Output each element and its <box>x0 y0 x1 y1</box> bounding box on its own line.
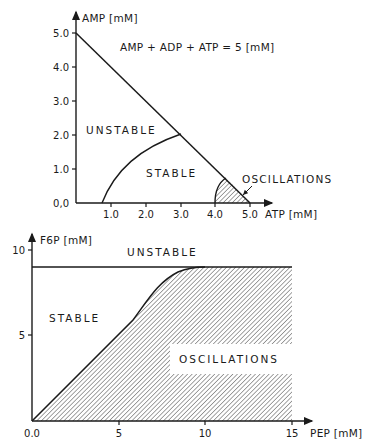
x-tick-1: 1.0 <box>103 209 119 220</box>
y-axis-label-top: AMP [mM] <box>82 12 138 24</box>
diagram-canvas: 5.0 4.0 3.0 2.0 1.0 0,0 1.0 2.0 3.0 4.0 … <box>0 0 378 448</box>
y-axis-label-bottom: F6P [mM] <box>40 234 92 246</box>
region-oscillations-top: OSCILLATIONS <box>242 173 332 185</box>
x-tick-2: 2.0 <box>138 209 154 220</box>
y-tick-0: 0,0 <box>53 198 69 209</box>
region-stable-bottom: STABLE <box>49 312 100 324</box>
x-tick-0-bottom: 0.0 <box>24 428 40 439</box>
x-tick-10-bottom: 10 <box>199 428 212 439</box>
y-tick-2: 2.0 <box>53 130 69 141</box>
constraint-equation: AMP + ADP + ATP = 5 [mM] <box>120 41 274 53</box>
x-tick-15-bottom: 15 <box>286 428 299 439</box>
x-tick-5: 5.0 <box>242 209 258 220</box>
x-axis-label-top: ATP [mM] <box>265 208 317 220</box>
y-tick-10: 10 <box>12 245 25 256</box>
region-unstable-bottom: UNSTABLE <box>127 246 198 258</box>
x-axis-label-bottom: PEP [mM] <box>310 427 363 439</box>
top-diagram: 5.0 4.0 3.0 2.0 1.0 0,0 1.0 2.0 3.0 4.0 … <box>53 12 332 220</box>
y-tick-3: 3.0 <box>53 96 69 107</box>
region-stable-top: STABLE <box>146 167 197 179</box>
y-tick-5: 5.0 <box>53 28 69 39</box>
y-tick-4: 4.0 <box>53 62 69 73</box>
y-tick-1: 1.0 <box>53 164 69 175</box>
x-tick-3: 3.0 <box>173 209 189 220</box>
x-tick-4: 4.0 <box>207 209 223 220</box>
bottom-diagram: 10 5 0.0 5 10 15 F6P [mM] PEP [mM] UNSTA… <box>12 234 362 439</box>
oscillations-pointer-arrow <box>243 186 252 195</box>
region-oscillations-bottom: OSCILLATIONS <box>179 353 279 365</box>
y-tick-5-bottom: 5 <box>19 330 25 341</box>
x-tick-5-bottom: 5 <box>116 428 122 439</box>
region-unstable-top: UNSTABLE <box>86 124 157 136</box>
